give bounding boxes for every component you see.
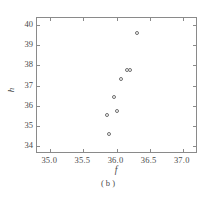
- x-axis-tick-label: 35.0: [41, 155, 57, 165]
- x-axis-tick: [150, 149, 151, 152]
- x-axis-tick: [50, 149, 51, 152]
- y-axis-tick-right: [193, 106, 196, 107]
- x-axis-tick-label: 36.5: [141, 155, 157, 165]
- y-axis-tick-right: [193, 45, 196, 46]
- data-point: [128, 68, 132, 72]
- y-axis-tick: [37, 86, 40, 87]
- y-axis-tick-label: 37: [20, 80, 33, 90]
- y-axis-tick: [37, 25, 40, 26]
- x-axis-tick-label: 35.5: [75, 155, 91, 165]
- y-axis-tick-right: [193, 86, 196, 87]
- y-axis-tick-label: 35: [20, 120, 33, 130]
- x-axis-tick-label: 36.0: [108, 155, 124, 165]
- y-axis-tick-label: 38: [20, 59, 33, 69]
- x-axis-tick-top: [183, 18, 184, 21]
- y-axis-tick: [37, 45, 40, 46]
- y-axis-label: h: [6, 88, 16, 93]
- y-axis-tick-right: [193, 126, 196, 127]
- y-axis-tick-right: [193, 146, 196, 147]
- data-point: [112, 95, 116, 99]
- y-axis-tick: [37, 106, 40, 107]
- x-axis-tick: [117, 149, 118, 152]
- data-point: [119, 77, 123, 81]
- y-axis-tick: [37, 65, 40, 66]
- data-point: [107, 132, 111, 136]
- x-axis-tick-top: [83, 18, 84, 21]
- x-axis-tick-top: [50, 18, 51, 21]
- x-axis-tick-label: 37.0: [174, 155, 190, 165]
- data-point: [135, 31, 139, 35]
- y-axis-tick-label: 40: [20, 19, 33, 29]
- x-axis-label: f: [115, 165, 118, 175]
- figure-caption: ( b ): [101, 178, 115, 188]
- y-axis-tick: [37, 146, 40, 147]
- x-axis-tick: [83, 149, 84, 152]
- y-axis-tick-right: [193, 65, 196, 66]
- plot-frame: [36, 17, 197, 153]
- y-axis-tick-label: 39: [20, 39, 33, 49]
- y-axis-tick-label: 36: [20, 100, 33, 110]
- x-axis-tick-top: [117, 18, 118, 21]
- x-axis-tick-top: [150, 18, 151, 21]
- y-axis-tick: [37, 126, 40, 127]
- data-point: [105, 113, 109, 117]
- y-axis-tick-label: 34: [20, 140, 33, 150]
- scatter-chart-figure: 35.035.536.036.537.034353637383940 h f (…: [0, 0, 216, 198]
- x-axis-tick: [183, 149, 184, 152]
- plot-area: [37, 18, 196, 152]
- y-axis-tick-right: [193, 25, 196, 26]
- data-point: [115, 109, 119, 113]
